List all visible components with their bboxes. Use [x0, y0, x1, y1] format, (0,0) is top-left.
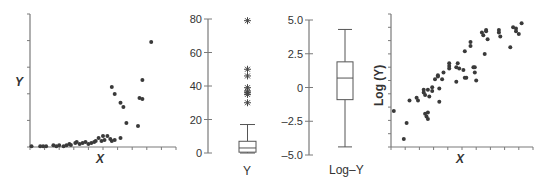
data-point — [423, 93, 427, 97]
data-point — [105, 134, 109, 138]
data-point — [469, 44, 473, 48]
p2-outliers — [244, 17, 251, 106]
data-point — [437, 100, 441, 104]
data-point — [461, 68, 465, 72]
data-point — [140, 97, 144, 101]
p4-x-label: X — [455, 152, 465, 166]
p1-x-label: X — [95, 152, 105, 166]
y-tick-label: 60 — [190, 47, 202, 59]
data-point — [402, 137, 406, 141]
p2-box — [239, 125, 256, 153]
data-point — [463, 49, 467, 53]
data-point — [433, 77, 437, 81]
data-point — [110, 85, 114, 89]
p4-data-points — [392, 21, 524, 141]
panel-box-log-y: 5.02.50–2.5–5.0 Log–Y — [282, 14, 364, 177]
data-point — [103, 138, 107, 142]
data-point — [508, 45, 512, 49]
iqr-box — [337, 62, 353, 100]
p3-box — [337, 29, 353, 146]
outlier-star-icon — [244, 17, 251, 24]
data-point — [422, 88, 426, 92]
data-point — [94, 139, 98, 143]
data-point — [486, 37, 490, 41]
data-point — [440, 77, 444, 81]
iqr-box — [239, 141, 256, 152]
y-tick-label: –5.0 — [282, 149, 303, 161]
data-point — [101, 134, 105, 138]
data-point — [149, 40, 153, 44]
data-point — [124, 121, 128, 125]
y-tick-label: –2.5 — [282, 115, 303, 127]
data-point — [426, 117, 430, 121]
data-point — [113, 92, 117, 96]
data-point — [427, 95, 431, 99]
data-point — [119, 101, 123, 105]
outlier-star-icon — [244, 99, 251, 106]
p4-y-label: Log (Y) — [372, 65, 386, 106]
outlier-star-icon — [244, 91, 251, 98]
y-tick-label: 40 — [190, 80, 202, 92]
data-point — [514, 27, 518, 31]
y-tick-label: 5.0 — [288, 14, 303, 26]
y-tick-label: 20 — [190, 114, 202, 126]
data-point — [473, 71, 477, 75]
data-point — [442, 71, 446, 75]
data-point — [119, 136, 123, 140]
p2-x-label: Y — [243, 164, 251, 178]
data-point — [69, 143, 73, 147]
data-point — [30, 144, 34, 148]
data-point — [447, 64, 451, 68]
data-point — [136, 124, 140, 128]
figure: Y X 806040200 Y 5.02.50–2.5–5.0 Log–Y Lo… — [0, 0, 550, 187]
y-tick-label: 80 — [190, 13, 202, 25]
panel-scatter-logy-vs-x: Log (Y) X — [372, 14, 533, 166]
p2-y-ticks: 806040200 — [190, 13, 212, 159]
p3-y-ticks: 5.02.50–2.5–5.0 — [282, 14, 313, 161]
y-tick-label: 0 — [196, 147, 202, 159]
data-point — [430, 89, 434, 93]
data-point — [483, 52, 487, 56]
p1-y-label: Y — [15, 75, 24, 89]
y-tick-label: 0 — [297, 82, 303, 94]
data-point — [484, 29, 488, 33]
data-point — [426, 110, 430, 114]
panel-box-y: 806040200 Y — [190, 13, 256, 178]
data-point — [430, 85, 434, 89]
data-point — [416, 99, 420, 103]
data-point — [457, 67, 461, 71]
data-point — [498, 35, 502, 39]
p3-x-label: Log–Y — [329, 163, 364, 177]
data-point — [44, 144, 48, 148]
data-point — [481, 33, 485, 37]
data-point — [426, 88, 430, 92]
data-point — [456, 61, 460, 65]
data-point — [464, 76, 468, 80]
data-point — [474, 79, 478, 83]
panel-scatter-y-vs-x: Y X — [15, 14, 176, 166]
outlier-star-icon — [244, 72, 251, 79]
p1-data-points — [30, 40, 154, 148]
y-tick-label: 2.5 — [288, 48, 303, 60]
data-point — [97, 136, 101, 140]
data-point — [497, 28, 501, 32]
data-point — [57, 143, 61, 147]
data-point — [517, 32, 521, 36]
outlier-star-icon — [244, 66, 251, 73]
data-point — [408, 99, 412, 103]
data-point — [520, 21, 524, 25]
data-point — [140, 78, 144, 82]
data-point — [121, 105, 125, 109]
data-point — [392, 109, 396, 113]
data-point — [113, 138, 117, 142]
data-point — [473, 65, 477, 69]
data-point — [469, 40, 473, 44]
data-point — [454, 80, 458, 84]
data-point — [405, 121, 409, 125]
data-point — [437, 87, 441, 91]
